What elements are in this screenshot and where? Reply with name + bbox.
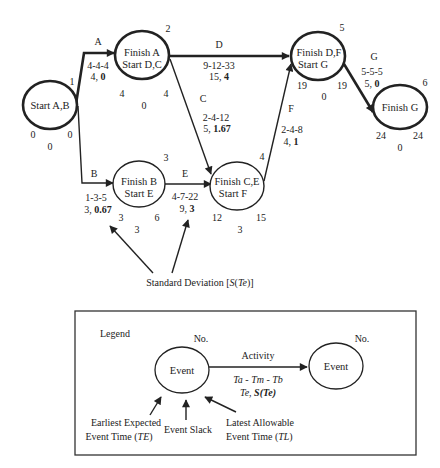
legend-earliest-te: TE <box>138 431 150 442</box>
pert-network-diagram: Start A,B 1 0 0 0 Finish A Start D,C 2 4… <box>0 0 440 468</box>
legend-te-formula: Te, S(Te) <box>240 387 276 399</box>
legend-no-right: No. <box>355 333 370 344</box>
activity-te: 3, <box>84 204 92 215</box>
legend-ste: S(Te) <box>254 387 276 399</box>
activity-sd: 4 <box>224 71 229 82</box>
legend-latest-close: ) <box>289 431 292 443</box>
activity-times: 5-5-5 <box>361 66 383 77</box>
event-slack: 0 <box>142 100 147 111</box>
node-label-line2: Start D,C <box>122 59 162 70</box>
sd-callout-label: Standard Deviation [S(Te)] <box>146 277 253 289</box>
node-label-line1: Finish D,F <box>297 47 342 58</box>
legend-earliest-prefix: Event Time ( <box>85 431 138 443</box>
activity-te-sd: 4, 1 <box>284 136 299 147</box>
activity-te-sd: 15, 4 <box>209 71 229 82</box>
latest-time: 15 <box>256 212 266 223</box>
activity-te-sd: 5, 0 <box>365 78 380 89</box>
earliest-time: 0 <box>31 129 36 140</box>
activity-te: 9, <box>180 203 188 214</box>
node-label: Finish G <box>382 102 419 113</box>
legend-te: Te, <box>240 387 254 398</box>
latest-time: 24 <box>413 130 423 141</box>
activity-g-label: G 5-5-5 5, 0 <box>361 51 383 89</box>
activity-name: F <box>288 103 294 114</box>
activity-name: B <box>91 168 98 179</box>
node-label-line2: Start E <box>125 188 154 199</box>
legend-latest-prefix: Event Time ( <box>226 431 279 443</box>
event-slack: 3 <box>238 224 243 235</box>
event-node-6: Finish G 6 24 24 0 <box>373 77 428 153</box>
activity-te-sd: 9, 3 <box>180 203 195 214</box>
activity-te-sd: 5, 1.67 <box>203 123 231 134</box>
legend-latest-line1: Latest Allowable <box>226 417 295 428</box>
activity-times: 1-3-5 <box>85 192 107 203</box>
activity-times: 2-4-12 <box>203 112 230 123</box>
sd-pointer-arrow-b <box>110 226 153 273</box>
node-number: 1 <box>70 76 75 87</box>
activity-name: A <box>94 36 102 47</box>
legend-event-slack: Event Slack <box>164 424 212 435</box>
activity-te: 4, <box>284 136 292 147</box>
legend-earliest-close: ) <box>149 431 152 443</box>
activity-times: 4-4-4 <box>87 60 109 71</box>
activity-sd: 0 <box>101 71 106 82</box>
event-node-1: Start A,B 1 0 0 0 <box>23 76 77 152</box>
earliest-time: 4 <box>120 88 125 99</box>
node-number: 5 <box>340 22 345 33</box>
activity-sd: 0.67 <box>94 204 112 215</box>
legend-event-left: Event <box>170 365 195 376</box>
earliest-time: 12 <box>212 212 222 223</box>
legend-times-formula: Ta - Tm - Tb <box>233 374 283 385</box>
legend-latest-line2: Event Time (TL) <box>226 431 293 443</box>
node-label-line1: Finish B <box>121 176 157 187</box>
activity-sd: 1.67 <box>213 123 231 134</box>
event-slack: 0 <box>398 142 403 153</box>
activity-name: G <box>370 51 377 62</box>
earliest-time: 19 <box>297 80 307 91</box>
activity-c-label: C 2-4-12 5, 1.67 <box>200 93 231 134</box>
activity-f-label: F 2-4-8 4, 1 <box>281 103 303 147</box>
sd-prefix: Standard Deviation [ <box>146 277 229 288</box>
event-slack: 3 <box>135 224 140 235</box>
event-node-4: Finish C,E Start F 4 12 15 3 <box>210 151 266 235</box>
event-node-3: Finish B Start E 3 3 6 3 <box>113 152 169 235</box>
event-slack: 0 <box>48 141 53 152</box>
legend-title: Legend <box>100 328 130 339</box>
activity-a-label: A 4-4-4 4, 0 <box>87 36 109 82</box>
legend-earliest-line1: Earliest Expected <box>91 417 161 428</box>
activity-b-label: B 1-3-5 3, 0.67 <box>84 168 112 215</box>
latest-time: 19 <box>337 80 347 91</box>
activity-times: 9-12-33 <box>203 60 235 71</box>
activity-sd: 0 <box>375 78 380 89</box>
legend-earliest-line2: Event Time (TE) <box>85 431 152 443</box>
activity-times: 4-7-22 <box>172 191 199 202</box>
activity-name: E <box>182 168 188 179</box>
activity-e-label: E 4-7-22 9, 3 <box>172 168 199 214</box>
earliest-time: 24 <box>376 130 386 141</box>
activity-name: C <box>200 93 207 104</box>
activity-te: 4, <box>91 71 99 82</box>
latest-time: 4 <box>164 88 169 99</box>
activity-sd: 3 <box>190 203 195 214</box>
activity-te: 5, <box>365 78 373 89</box>
node-number: 2 <box>166 23 171 34</box>
latest-time: 0 <box>68 129 73 140</box>
activity-name: D <box>215 39 222 50</box>
activity-te-sd: 3, 0.67 <box>84 204 112 215</box>
sd-close: )] <box>247 277 254 289</box>
node-label-line2: Start F <box>219 188 247 199</box>
activity-d-label: D 9-12-33 15, 4 <box>203 39 235 82</box>
sd-pointer-arrow-e <box>172 220 188 273</box>
event-slack: 0 <box>322 91 327 102</box>
event-node-2: Finish A Start D,C 2 4 4 0 <box>115 23 171 111</box>
event-node-5: Finish D,F Start G 5 19 19 0 <box>291 22 347 102</box>
activity-te: 5, <box>203 123 211 134</box>
earliest-time: 3 <box>119 212 124 223</box>
node-number: 3 <box>164 152 169 163</box>
node-label: Start A,B <box>30 100 69 111</box>
node-label-line1: Finish A <box>124 47 160 58</box>
node-label-line2: Start G <box>298 59 328 70</box>
activity-times: 2-4-8 <box>281 124 303 135</box>
activity-te: 15, <box>209 71 222 82</box>
activity-te-sd: 4, 0 <box>91 71 106 82</box>
